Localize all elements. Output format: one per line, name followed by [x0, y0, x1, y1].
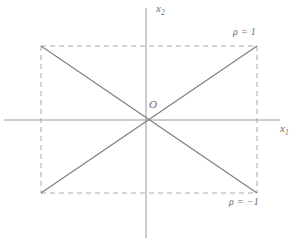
x-axis-label-subscript: 1: [285, 128, 289, 137]
y-axis-label: x2: [156, 3, 165, 17]
origin-label: O: [149, 99, 157, 110]
figure-canvas: x2 x1 O ρ = 1 ρ = −1: [0, 0, 297, 241]
x-axis-label: x1: [280, 123, 289, 137]
annotation-rho-positive: ρ = 1: [233, 27, 256, 37]
y-axis-label-subscript: 2: [161, 8, 165, 17]
annotation-rho-negative: ρ = −1: [229, 197, 259, 207]
